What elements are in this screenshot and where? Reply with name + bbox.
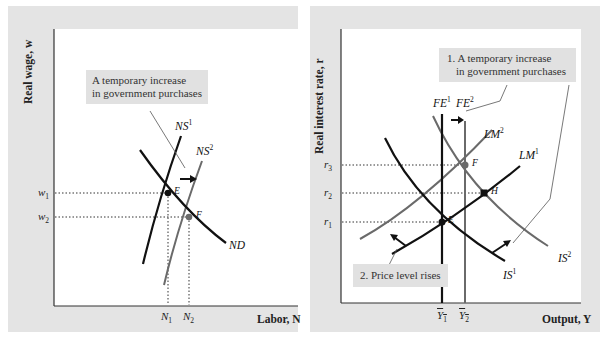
curve-label-ns2: NS2 xyxy=(196,143,213,157)
curve-label-ns1: NS1 xyxy=(175,118,192,132)
tick-r3: r3 xyxy=(324,158,332,173)
tick-w1: w1 xyxy=(38,186,49,201)
point-label-f: F xyxy=(472,158,478,168)
y-axis-label: Real interest rate, r xyxy=(313,58,325,154)
x-axis-label: Labor, N xyxy=(257,313,301,325)
point-label-e: E xyxy=(448,215,454,225)
curve-label-lm2: LM2 xyxy=(484,126,504,140)
annotation-government-purchases: A temporary increase in government purch… xyxy=(86,70,208,104)
annotation-government-purchases: 1. A temporary increase in government pu… xyxy=(439,48,576,82)
tick-r2: r2 xyxy=(324,186,332,201)
curve-label-is1: IS1 xyxy=(503,267,516,281)
x-axis-label: Output, Y xyxy=(542,313,591,325)
curve-label-is2: IS2 xyxy=(558,250,571,264)
tick-y2-bar: Y2 xyxy=(459,309,469,324)
point-label-f: F xyxy=(196,210,202,220)
curve-label-fe1: FE1 xyxy=(433,95,451,109)
curve-label-nd: ND xyxy=(229,239,245,251)
curve-label-lm1: LM1 xyxy=(519,147,539,161)
tick-n1: N1 xyxy=(161,310,172,325)
labor-market-panel: Real wage, w Labor, N A temporary increa… xyxy=(8,6,298,332)
point-label-h: H xyxy=(491,186,498,196)
tick-w2: w2 xyxy=(38,210,49,225)
tick-y1-bar: Y1 xyxy=(437,309,447,324)
curve-label-fe2: FE2 xyxy=(456,95,474,109)
annotation-price-level: 2. Price level rises xyxy=(353,264,448,287)
point-label-e: E xyxy=(174,186,180,196)
y-axis-label: Real wage, w xyxy=(22,40,34,104)
labor-market-plot xyxy=(8,6,298,332)
tick-r1: r1 xyxy=(324,215,332,230)
tick-n2: N2 xyxy=(183,310,194,325)
is-lm-panel: Real interest rate, r Output, Y 1. A tem… xyxy=(310,6,600,332)
